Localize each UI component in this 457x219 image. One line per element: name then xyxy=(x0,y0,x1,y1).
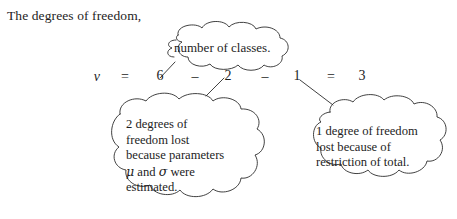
equation-minus-first: – xyxy=(186,69,204,85)
equation-term-result: 3 xyxy=(354,68,370,84)
callout-right-line-1: 1 degree of freedom xyxy=(316,124,418,140)
equation-equals-second: = xyxy=(322,69,340,85)
callout-left-line-4: μ and σ were xyxy=(126,164,224,181)
intro-text: The degrees of freedom, xyxy=(7,8,141,24)
equation-minus-second: – xyxy=(256,69,274,85)
callout-left-label: 2 degrees of freedom lost because parame… xyxy=(126,117,224,196)
callout-top-label: number of classes. xyxy=(174,40,270,56)
callout-left-line-3: because parameters xyxy=(126,148,224,164)
equation-term-restriction: 1 xyxy=(289,68,305,84)
callout-left-line-2: freedom lost xyxy=(126,133,224,149)
equation-term-classes: 6 xyxy=(152,68,168,84)
callout-right-line-3: restriction of total. xyxy=(316,155,418,171)
callout-shapes xyxy=(0,0,457,219)
equation-equals-first: = xyxy=(116,69,134,85)
sigma-symbol: σ xyxy=(159,164,168,179)
callout-right-label: 1 degree of freedom lost because of rest… xyxy=(316,124,418,171)
figure-canvas: The degrees of freedom, ν = 6 – 2 – 1 = … xyxy=(0,0,457,219)
equation-term-nu: ν xyxy=(88,69,106,85)
callout-left-line-4-mid: and xyxy=(134,165,158,179)
callout-left-line-5: estimated. xyxy=(126,180,224,196)
callout-left-line-1: 2 degrees of xyxy=(126,117,224,133)
mu-symbol: μ xyxy=(126,164,134,179)
callout-right-line-2: lost because of xyxy=(316,140,418,156)
equation-term-parameters: 2 xyxy=(220,68,236,84)
callout-left-line-4-post: were xyxy=(167,165,195,179)
